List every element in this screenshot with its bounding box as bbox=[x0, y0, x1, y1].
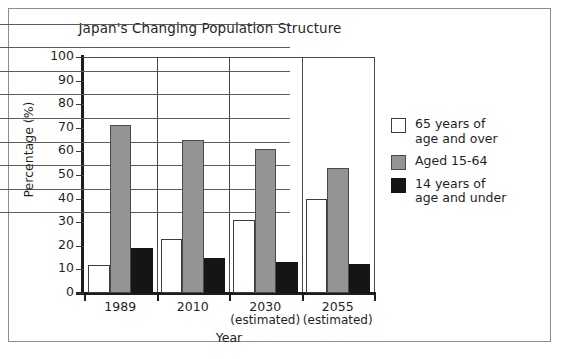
y-tick-label-box: 20 bbox=[42, 239, 74, 253]
legend-item-1: 65 years of age and over bbox=[391, 117, 541, 147]
bar-1989-series1 bbox=[88, 265, 110, 293]
gridline bbox=[0, 94, 290, 95]
plot-wrapper: 0102030405060708090100 Percentage (%) 19… bbox=[0, 0, 566, 359]
y-tick-label: 0 bbox=[44, 286, 74, 299]
bar-2030-series2 bbox=[255, 149, 277, 293]
gridline bbox=[0, 71, 290, 72]
y-tick-label-box: 80 bbox=[42, 97, 74, 111]
y-tick-label: 100 bbox=[44, 50, 74, 63]
y-tick-mark bbox=[76, 246, 84, 247]
bar-2010-series2 bbox=[182, 140, 204, 293]
legend-item-3: 14 years of age and under bbox=[391, 177, 541, 207]
gridline bbox=[0, 142, 290, 143]
gridline bbox=[0, 165, 290, 166]
y-tick-label-box: 10 bbox=[42, 262, 74, 276]
y-tick-label-box: 0 bbox=[42, 286, 74, 300]
y-tick-label-box: 70 bbox=[42, 121, 74, 135]
gridline bbox=[0, 212, 290, 213]
gridline bbox=[0, 24, 290, 25]
gridline bbox=[0, 47, 290, 48]
y-axis-title: Percentage (%) bbox=[21, 90, 36, 210]
y-tick-mark bbox=[76, 222, 84, 223]
y-tick-label: 90 bbox=[44, 74, 74, 87]
x-tick-year: 1989 bbox=[104, 299, 136, 314]
chart-figure: Japan's Changing Population Structure 01… bbox=[0, 0, 566, 359]
y-tick-mark bbox=[76, 57, 84, 58]
group-divider bbox=[229, 57, 230, 293]
bar-2010-series3 bbox=[204, 258, 226, 293]
bar-2055-series1 bbox=[306, 199, 328, 293]
y-tick-label-box: 30 bbox=[42, 215, 74, 229]
legend-swatch-black bbox=[391, 178, 406, 193]
y-tick-label: 40 bbox=[44, 192, 74, 205]
group-divider bbox=[302, 57, 303, 293]
legend-item-2: Aged 15-64 bbox=[391, 154, 541, 170]
y-tick-label: 50 bbox=[44, 168, 74, 181]
y-tick-mark bbox=[76, 269, 84, 270]
legend-swatch-white bbox=[391, 118, 406, 133]
x-tick-estimated-note: (estimated) bbox=[293, 314, 383, 327]
chart-legend: 65 years of age and overAged 15-6414 yea… bbox=[391, 117, 541, 213]
y-tick-mark bbox=[76, 128, 84, 129]
group-divider bbox=[157, 57, 158, 293]
x-tick-year: 2010 bbox=[177, 299, 209, 314]
y-tick-mark bbox=[76, 81, 84, 82]
y-tick-label-box: 100 bbox=[42, 50, 74, 64]
bar-2010-series1 bbox=[161, 239, 183, 293]
y-tick-label-box: 50 bbox=[42, 168, 74, 182]
x-tick-label: 2055(estimated) bbox=[293, 300, 383, 327]
y-tick-label: 70 bbox=[44, 121, 74, 134]
y-tick-label-box: 40 bbox=[42, 192, 74, 206]
y-tick-label: 20 bbox=[44, 239, 74, 252]
x-tick-year: 2030 bbox=[249, 299, 281, 314]
bar-2030-series1 bbox=[233, 220, 255, 293]
legend-label: Aged 15-64 bbox=[415, 154, 487, 169]
bar-2055-series2 bbox=[327, 168, 349, 293]
y-tick-label-box: 90 bbox=[42, 74, 74, 88]
y-tick-mark bbox=[76, 104, 84, 105]
legend-swatch-gray bbox=[391, 155, 406, 170]
y-tick-label: 60 bbox=[44, 144, 74, 157]
bar-1989-series3 bbox=[131, 248, 153, 293]
y-tick-mark bbox=[76, 199, 84, 200]
bar-1989-series2 bbox=[110, 125, 132, 293]
bar-2055-series3 bbox=[349, 264, 371, 294]
y-tick-mark bbox=[76, 151, 84, 152]
x-tick-year: 2055 bbox=[322, 299, 354, 314]
legend-label: 65 years of age and over bbox=[415, 117, 498, 147]
gridline bbox=[0, 189, 290, 190]
y-tick-label: 30 bbox=[44, 215, 74, 228]
x-axis-title: Year bbox=[84, 330, 374, 345]
y-tick-label-box: 60 bbox=[42, 144, 74, 158]
bar-2030-series3 bbox=[276, 262, 298, 293]
y-tick-mark bbox=[76, 175, 84, 176]
y-tick-label: 80 bbox=[44, 97, 74, 110]
y-tick-label: 10 bbox=[44, 262, 74, 275]
legend-label: 14 years of age and under bbox=[415, 177, 506, 207]
gridline bbox=[0, 118, 290, 119]
y-tick-mark bbox=[76, 293, 84, 294]
